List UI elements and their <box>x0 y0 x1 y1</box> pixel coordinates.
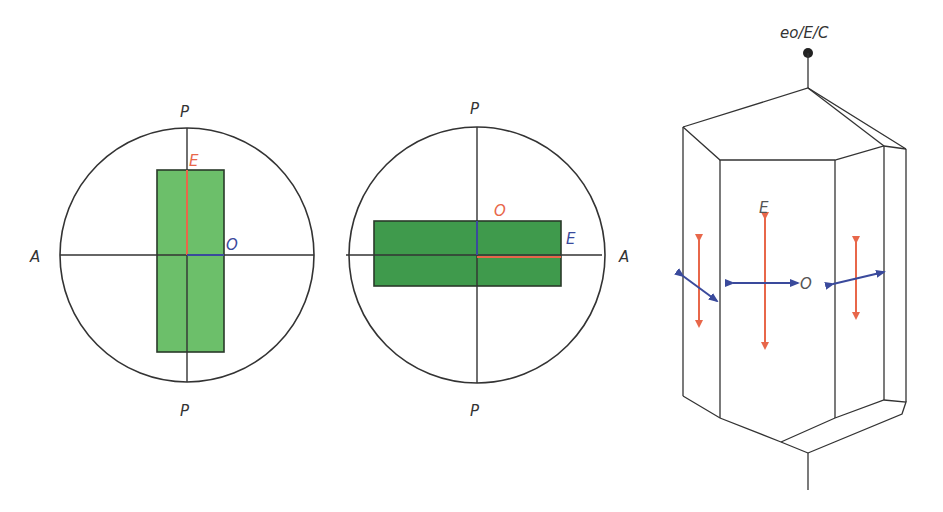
optics-diagram: P P A E O P P A O E eo/E/C <box>0 0 943 512</box>
label-a: A <box>29 248 40 266</box>
top-face-edges <box>683 127 906 160</box>
middle-conoscope-panel: P P A O E <box>346 100 629 420</box>
bottom-right-edges <box>781 400 906 453</box>
label-o: O <box>494 202 506 220</box>
label-e: E <box>189 152 199 170</box>
optic-axis-label: eo/E/C <box>780 24 829 42</box>
label-o: O <box>800 275 812 293</box>
bottom-edges <box>683 396 808 453</box>
vibration-arrows: E O <box>683 199 884 348</box>
crystal-section-vertical <box>157 170 224 352</box>
ordinary-arrow-right-face <box>833 272 884 284</box>
label-o: O <box>226 236 238 254</box>
label-a: A <box>618 248 629 266</box>
top-inner-ridge <box>808 88 884 146</box>
crystal-section-horizontal <box>374 221 561 286</box>
label-p-bottom: P <box>180 402 190 420</box>
label-p-top: P <box>470 100 480 118</box>
left-conoscope-panel: P P A E O <box>29 103 314 420</box>
label-e: E <box>566 230 576 248</box>
label-e: E <box>759 199 769 217</box>
top-ridge <box>683 88 906 149</box>
label-p-bottom: P <box>470 402 480 420</box>
crystal-prism-panel: eo/E/C <box>683 24 906 490</box>
label-p-top: P <box>180 103 190 121</box>
